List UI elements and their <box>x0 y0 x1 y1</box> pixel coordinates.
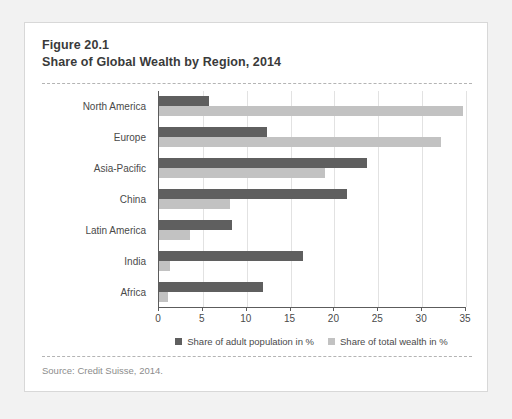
bar <box>159 168 325 178</box>
x-axis-tick-label: 20 <box>328 313 339 324</box>
source-note: Source: Credit Suisse, 2014. <box>42 365 163 376</box>
x-axis-tick <box>377 307 378 311</box>
x-axis-tick-label: 15 <box>284 313 295 324</box>
category-label: Asia-Pacific <box>94 163 146 174</box>
figure-title: Share of Global Wealth by Region, 2014 <box>42 54 462 71</box>
chart-legend: Share of adult population in %Share of t… <box>158 336 465 347</box>
bar <box>159 292 168 302</box>
category-label: India <box>124 255 146 266</box>
category-label: Africa <box>120 286 146 297</box>
figure-title-block: Figure 20.1 Share of Global Wealth by Re… <box>42 37 462 71</box>
bar <box>159 220 232 230</box>
category-label: North America <box>83 101 146 112</box>
bar <box>159 199 230 209</box>
x-axis-line <box>158 307 465 308</box>
x-axis-tick <box>158 307 159 311</box>
bar <box>159 96 209 106</box>
bar <box>159 106 463 116</box>
x-axis-tick <box>202 307 203 311</box>
category-label: Europe <box>114 132 146 143</box>
legend-item: Share of total wealth in % <box>328 336 448 347</box>
category-label: Latin America <box>85 224 146 235</box>
category-label: China <box>120 194 146 205</box>
legend-swatch-icon <box>175 338 182 345</box>
divider-bottom <box>42 356 472 357</box>
x-axis-tick <box>465 307 466 311</box>
category-axis-labels: North AmericaEuropeAsia-PacificChinaLati… <box>42 91 152 307</box>
x-axis-tick-label: 0 <box>155 313 161 324</box>
bar <box>159 189 347 199</box>
bar <box>159 251 303 261</box>
x-axis-tick-label: 25 <box>372 313 383 324</box>
x-axis-tick-label: 10 <box>240 313 251 324</box>
x-axis-tick-label: 30 <box>416 313 427 324</box>
gridline <box>466 91 467 307</box>
x-axis-tick <box>246 307 247 311</box>
legend-swatch-icon <box>328 338 335 345</box>
divider-top <box>42 83 472 84</box>
bars-group <box>159 91 465 307</box>
x-axis-tick <box>333 307 334 311</box>
bar <box>159 282 263 292</box>
legend-label: Share of total wealth in % <box>340 336 448 347</box>
x-axis-tick-label: 35 <box>459 313 470 324</box>
x-axis-tick <box>290 307 291 311</box>
x-axis-tick-label: 5 <box>199 313 205 324</box>
figure-number: Figure 20.1 <box>42 37 462 54</box>
bar <box>159 158 367 168</box>
bar <box>159 261 170 271</box>
plot-area <box>158 91 465 307</box>
bar <box>159 230 190 240</box>
bar <box>159 127 267 137</box>
x-axis-tick <box>421 307 422 311</box>
legend-label: Share of adult population in % <box>187 336 314 347</box>
legend-item: Share of adult population in % <box>175 336 314 347</box>
bar-chart: North AmericaEuropeAsia-PacificChinaLati… <box>42 91 472 346</box>
bar <box>159 137 441 147</box>
figure-card: Figure 20.1 Share of Global Wealth by Re… <box>24 22 488 392</box>
